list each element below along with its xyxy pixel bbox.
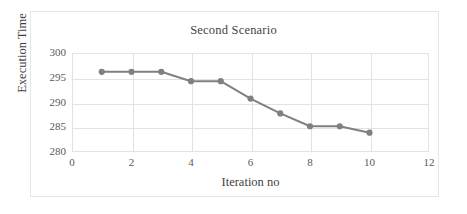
x-gridline (133, 54, 134, 151)
y-axis-tick-label: 290 (32, 97, 66, 108)
y-axis-tick-label: 285 (32, 121, 66, 132)
plot-area (72, 53, 429, 152)
y-axis-tick-label: 300 (32, 47, 66, 58)
x-axis-tick-label: 0 (57, 157, 87, 168)
y-axis-tick-label: 280 (32, 146, 66, 157)
chart-figure: Second Scenario Execution Time Iteration… (0, 0, 467, 214)
chart-title: Second Scenario (0, 23, 467, 38)
y-gridline (73, 79, 428, 80)
y-gridline (73, 104, 428, 105)
x-axis-tick-label: 6 (236, 157, 266, 168)
x-gridline (371, 54, 372, 151)
x-axis-tick-label: 2 (117, 157, 147, 168)
x-axis-tick-label: 12 (414, 157, 444, 168)
y-axis-tick-label: 295 (32, 72, 66, 83)
x-axis-title: Iteration no (72, 175, 429, 190)
x-gridline (252, 54, 253, 151)
y-axis-title: Execution Time (15, 0, 31, 113)
x-axis-tick-label: 10 (355, 157, 385, 168)
x-gridline (192, 54, 193, 151)
x-axis-tick-label: 8 (295, 157, 325, 168)
x-gridline (311, 54, 312, 151)
y-gridline (73, 128, 428, 129)
x-axis-tick-label: 4 (176, 157, 206, 168)
